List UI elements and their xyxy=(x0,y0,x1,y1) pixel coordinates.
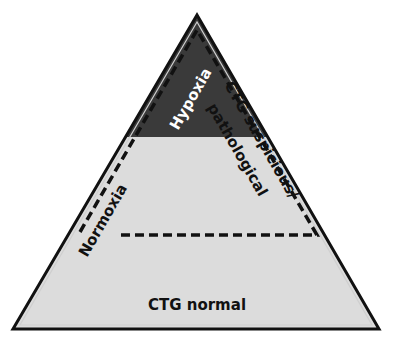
pyramid-diagram: Hypoxia CTG suspicious/ pathological Nor… xyxy=(0,0,396,345)
label-ctg-normal: CTG normal xyxy=(148,296,246,314)
